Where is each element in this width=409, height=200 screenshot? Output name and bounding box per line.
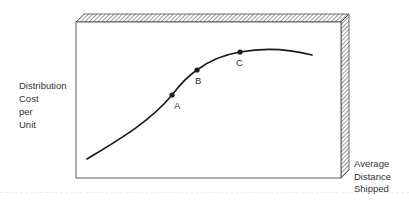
point-b-marker: [194, 67, 199, 72]
box-top-edge: [76, 14, 349, 22]
y-axis-label-line: per: [19, 105, 67, 118]
y-axis-label: Distribution Cost per Unit: [19, 79, 67, 131]
y-axis-label-line: Unit: [19, 118, 67, 131]
point-c-marker: [237, 49, 242, 54]
point-b-label: B: [195, 75, 201, 86]
box-front-face: [76, 22, 341, 178]
x-axis-label: Average Distance Shipped: [354, 158, 391, 196]
x-axis-label-line: Shipped: [354, 183, 391, 196]
x-axis-label-line: Average: [354, 158, 391, 171]
point-c-label: C: [236, 57, 243, 68]
x-axis-label-line: Distance: [354, 171, 391, 184]
y-axis-label-line: Distribution: [19, 79, 67, 92]
point-a-label: A: [174, 100, 180, 111]
y-axis-label-line: Cost: [19, 92, 67, 105]
scan-artifact-line: [0, 192, 409, 193]
box-right-edge: [341, 14, 349, 178]
point-a-marker: [169, 92, 174, 97]
